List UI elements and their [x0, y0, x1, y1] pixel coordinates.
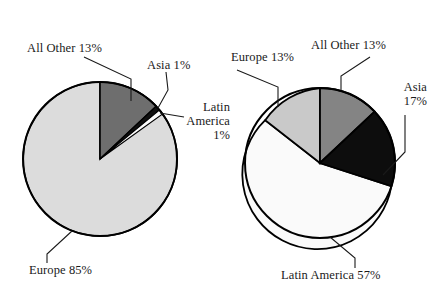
left-leader-europe: [47, 231, 72, 263]
pie-chart-figure: All Other 13% Asia 1% Latin America 1% E…: [0, 0, 435, 293]
left-pie-group: [23, 57, 184, 263]
left-label-latin-america-line3: 1%: [213, 128, 230, 142]
right-label-all-other: All Other 13%: [311, 38, 386, 52]
left-label-latin-america-line1: Latin: [203, 100, 230, 114]
left-leader-asia: [158, 72, 168, 108]
left-label-latin-america-line2: America: [186, 114, 230, 128]
left-label-all-other: All Other 13%: [27, 41, 102, 55]
left-label-latin-america: Latin America 1%: [182, 100, 230, 142]
right-label-asia: Asia 17%: [385, 80, 427, 108]
right-label-asia-line1: Asia: [404, 80, 427, 94]
right-pie-group: [237, 57, 405, 268]
right-label-latin-america: Latin America 57%: [281, 268, 381, 282]
right-leader-europe: [237, 70, 278, 107]
right-leader-all-other: [341, 57, 370, 90]
left-label-asia: Asia 1%: [147, 58, 190, 72]
left-label-europe: Europe 85%: [29, 263, 92, 277]
right-label-asia-line2: 17%: [404, 94, 427, 108]
right-label-europe: Europe 13%: [231, 50, 294, 64]
